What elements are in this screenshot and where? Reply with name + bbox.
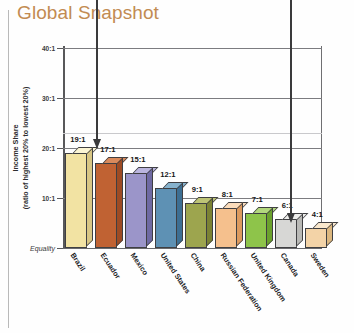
ytick-equality [57,248,63,249]
bar-face [216,209,236,247]
bar-brazil[interactable] [65,153,87,248]
bar-label-united-states: United States [159,251,193,295]
plot-area: Income Share (ratio of highest 20% to lo… [63,48,322,248]
bar-value-united-kingdom: 7:1 [252,195,263,204]
bar-canada[interactable] [275,219,297,248]
page-title: Global Snapshot [17,2,159,24]
bar-value-sweden: 4:1 [312,210,323,219]
bar-label-ecuador: Ecuador [99,251,123,281]
bar-face [66,154,86,247]
bar-russian-federation[interactable] [215,208,237,248]
bar-face [246,214,266,247]
bar-mexico[interactable] [125,173,147,248]
arrow-head-down-icon [287,213,295,223]
bar-side [116,157,123,247]
arrow-head-down-icon [93,139,101,149]
bar-value-russian-federation: 8:1 [222,190,233,199]
bar-side [296,213,303,247]
bar-sweden[interactable] [305,228,327,248]
ytick-label-30: 30:1 [42,95,55,102]
bar-face [96,164,116,247]
bar-side [176,182,183,247]
bar-side [266,207,273,247]
bar-united-states[interactable] [155,188,177,248]
annotation-arrow-sweden [290,0,292,214]
bar-group-sweden[interactable]: 4:1 Sweden [305,228,327,248]
y-axis-title: Income Share (ratio of highest 20% to lo… [11,87,31,210]
bar-value-brazil: 19:1 [70,135,85,144]
bar-label-china: China [189,251,208,273]
bar-face [306,229,326,247]
ytick-40 [57,48,63,49]
bar-group-united-kingdom[interactable]: 7:1 United Kingdom [245,213,267,248]
bar-value-united-states: 12:1 [160,170,175,179]
ytick-label-20: 20:1 [42,145,55,152]
bar-side [206,197,213,247]
gridline-baseline [63,248,322,249]
ytick-label-40: 40:1 [42,45,55,52]
page-left-rule [8,10,9,328]
bar-united-kingdom[interactable] [245,213,267,248]
y-axis-title-line1: Income Share [11,87,21,210]
bar-group-ecuador[interactable]: 17:1 Ecuador [95,163,117,248]
bar-series: 19:1 Brazil 17:1 Ecuador [65,48,322,248]
ytick-label-10: 10:1 [42,195,55,202]
bar-group-canada[interactable]: 6:1 Canada [275,219,297,248]
bar-group-mexico[interactable]: 15:1 Mexico [125,173,147,248]
bar-value-mexico: 15:1 [130,155,145,164]
bar-value-ecuador: 17:1 [100,145,115,154]
bar-ecuador[interactable] [95,163,117,248]
bar-group-united-states[interactable]: 12:1 United States [155,188,177,248]
chart-page: Global Snapshot Income Share (ratio of h… [0,0,354,333]
bar-label-canada: Canada [279,251,301,278]
bar-face [156,189,176,247]
bar-value-china: 9:1 [192,185,203,194]
bar-china[interactable] [185,203,207,248]
bar-side [146,167,153,247]
bar-side [236,202,243,247]
bar-group-brazil[interactable]: 19:1 Brazil [65,153,87,248]
bar-label-mexico: Mexico [129,251,150,277]
ytick-30 [57,98,63,99]
ytick-20 [57,148,63,149]
annotation-arrow-brazil [96,0,98,140]
ytick-label-equality: Equality [30,245,55,252]
bar-face [126,174,146,247]
ytick-10 [57,198,63,199]
y-axis-title-line2: (ratio of highest 20% to lowest 20%) [21,87,31,210]
bar-label-brazil: Brazil [69,251,88,273]
bar-label-sweden: Sweden [309,251,332,279]
bar-face [186,204,206,247]
bar-group-china[interactable]: 9:1 China [185,203,207,248]
bar-side [86,147,93,247]
bar-group-russian-federation[interactable]: 8:1 Russian Federation [215,208,237,248]
bar-face [276,220,296,247]
